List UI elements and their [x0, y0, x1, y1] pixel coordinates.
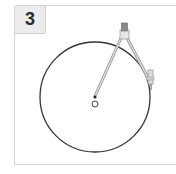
- center-point-icon: [92, 101, 98, 107]
- compass-circle-diagram: [0, 0, 176, 174]
- compass-icon: [93, 23, 154, 99]
